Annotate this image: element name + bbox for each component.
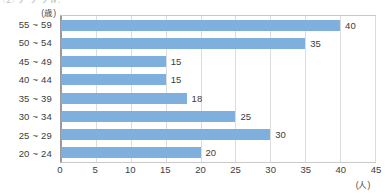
bar-row: 40: [61, 16, 375, 34]
y-axis-label: 45 ~ 49: [0, 52, 56, 71]
bar: [61, 38, 305, 49]
y-axis-label: 25 ~ 29: [0, 126, 56, 145]
x-axis-unit-label: (人): [356, 178, 371, 190]
x-axis-tick: 10: [125, 164, 136, 175]
bar-row: 35: [61, 34, 375, 52]
bar-value-label: 35: [310, 38, 321, 49]
bar-value-label: 20: [206, 147, 217, 158]
x-axis-tick: 5: [92, 164, 97, 175]
x-axis-tick: 25: [230, 164, 241, 175]
bar-value-label: 18: [192, 93, 203, 104]
bar-value-label: 15: [171, 56, 182, 67]
bar-row: 30: [61, 126, 375, 144]
y-axis-label: 50 ~ 54: [0, 34, 56, 53]
bar-value-label: 40: [345, 20, 356, 31]
bar: [61, 111, 235, 122]
x-axis-tick: 30: [265, 164, 276, 175]
bar-row: 20: [61, 144, 375, 162]
y-axis-label: 55 ~ 59: [0, 15, 56, 34]
bar: [61, 129, 270, 140]
bar-chart: (歳) 55 ~ 5950 ~ 5445 ~ 4940 ~ 4435 ~ 393…: [0, 0, 388, 195]
y-axis-label: 20 ~ 24: [0, 145, 56, 164]
y-axis-labels: 55 ~ 5950 ~ 5445 ~ 4940 ~ 4435 ~ 3930 ~ …: [0, 15, 56, 163]
bar: [61, 20, 340, 31]
bar-value-label: 25: [240, 111, 251, 122]
bar-value-label: 15: [171, 74, 182, 85]
x-axis-tick: 40: [336, 164, 347, 175]
bar: [61, 147, 201, 158]
y-axis-label: 30 ~ 34: [0, 108, 56, 127]
bar-value-label: 30: [275, 129, 286, 140]
x-axis-tick: 45: [371, 164, 382, 175]
y-axis-label: 40 ~ 44: [0, 71, 56, 90]
bar: [61, 74, 166, 85]
plot-area: 4035151518253020: [60, 15, 376, 163]
bar-row: 18: [61, 89, 375, 107]
x-axis-tick: 35: [300, 164, 311, 175]
gridline: [375, 16, 376, 162]
bar-row: 15: [61, 71, 375, 89]
bar: [61, 93, 187, 104]
bar-row: 25: [61, 107, 375, 125]
x-axis-tick: 0: [57, 164, 62, 175]
bar-row: 15: [61, 53, 375, 71]
y-axis-label: 35 ~ 39: [0, 89, 56, 108]
x-axis-tick: 20: [195, 164, 206, 175]
x-axis-tick: 15: [160, 164, 171, 175]
bar-series: 4035151518253020: [61, 16, 375, 162]
bar: [61, 56, 166, 67]
x-axis-tick-labels: 051015202530354045: [60, 164, 376, 180]
